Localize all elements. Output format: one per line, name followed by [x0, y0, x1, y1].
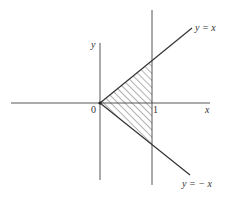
label-y-equals-x: y = x [194, 22, 216, 33]
x-axis-label: x [204, 104, 210, 115]
label-y-equals-neg-x: y = − x [181, 178, 212, 189]
origin-label: 0 [91, 104, 96, 115]
origin-point [98, 101, 101, 104]
diagram-canvas: y x 0 1 y = x y = − x [0, 0, 228, 200]
tick-label-one: 1 [153, 104, 158, 115]
y-axis-label: y [90, 39, 96, 50]
